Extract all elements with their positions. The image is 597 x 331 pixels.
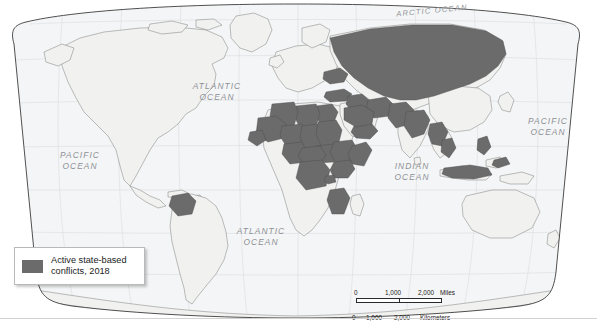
scalebar-miles-zero: 0: [354, 288, 358, 297]
world-map-figure: ARCTIC OCEAN PACIFIC OCEAN PACIFIC OCEAN…: [0, 0, 597, 331]
map-legend: Active state-based conflicts, 2018: [14, 247, 145, 285]
map-scalebar: 0 1,000 2,000 Miles 0 1,000 2,000 Kilome…: [352, 288, 464, 314]
scalebar-miles-mid: 1,000: [385, 288, 401, 297]
scalebar-miles-unit: Miles: [440, 288, 455, 297]
scalebar-tick-mid: [399, 298, 400, 303]
bottom-divider: [0, 318, 597, 319]
scalebar-miles-labels: 0 1,000 2,000 Miles: [352, 288, 464, 297]
legend-swatch-conflict: [22, 260, 43, 273]
legend-label: Active state-based conflicts, 2018: [51, 255, 127, 278]
scalebar-miles-max: 2,000: [418, 288, 434, 297]
